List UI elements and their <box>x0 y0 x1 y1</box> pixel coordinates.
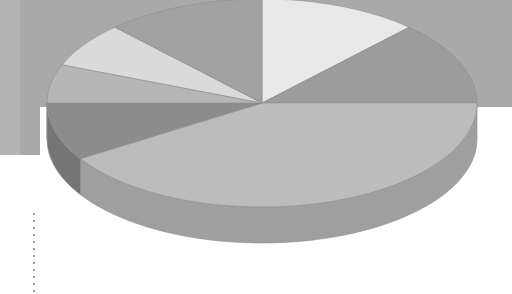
pie-chart-slide <box>0 0 512 294</box>
chart-canvas <box>0 0 512 294</box>
pie-slices <box>47 0 477 207</box>
guide-dot <box>33 262 35 264</box>
guide-dot <box>33 255 35 257</box>
guide-dot <box>33 241 35 243</box>
guide-dot <box>33 283 35 285</box>
background-left-strip-top <box>0 0 20 107</box>
guide-dot <box>33 213 35 215</box>
guide-dot <box>33 248 35 250</box>
guide-dot <box>33 234 35 236</box>
guide-dot <box>33 276 35 278</box>
guide-dot <box>33 290 35 292</box>
background-left-strip-lower <box>0 107 20 155</box>
guide-dot <box>33 269 35 271</box>
guide-dot <box>33 227 35 229</box>
guide-dot <box>33 220 35 222</box>
